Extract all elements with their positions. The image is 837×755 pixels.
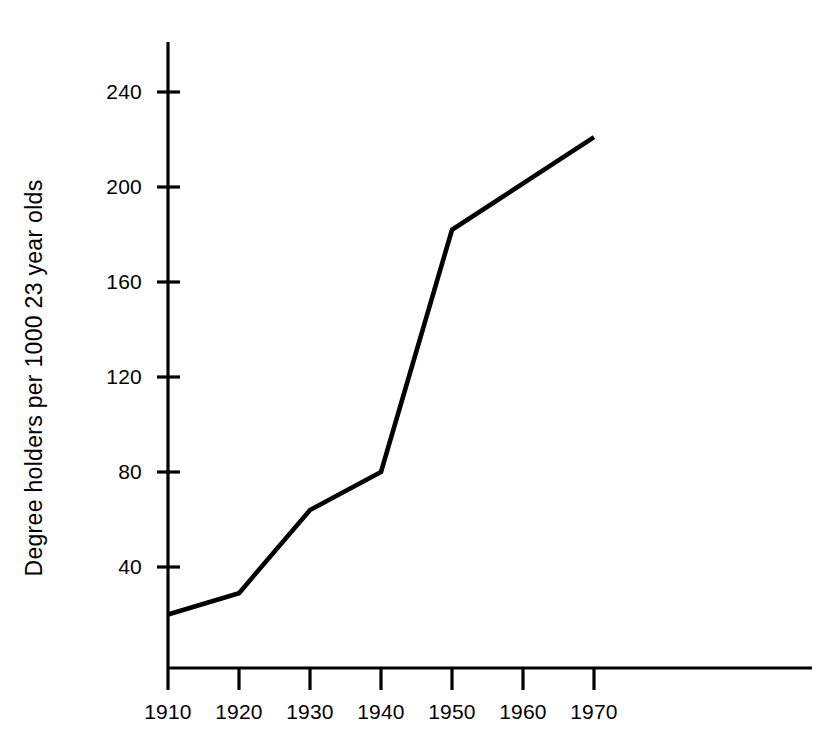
y-tick-label-80: 80 — [72, 460, 142, 484]
y-tick-label-120: 120 — [72, 365, 142, 389]
x-axis-ticks — [168, 668, 594, 690]
x-tick-label-1960: 1960 — [483, 700, 563, 724]
x-tick-label-1950: 1950 — [412, 700, 492, 724]
x-tick-label-1920: 1920 — [199, 700, 279, 724]
line-chart: 240 200 160 120 80 40 1910 1920 1930 194… — [0, 0, 837, 755]
x-tick-label-1910: 1910 — [128, 700, 208, 724]
x-tick-label-1940: 1940 — [341, 700, 421, 724]
y-axis-title: Degree holders per 1000 23 year olds — [11, 58, 57, 698]
y-tick-label-200: 200 — [72, 175, 142, 199]
y-tick-label-160: 160 — [72, 270, 142, 294]
data-series-line — [168, 137, 594, 614]
x-tick-label-1970: 1970 — [554, 700, 634, 724]
y-tick-label-240: 240 — [72, 80, 142, 104]
x-tick-label-1930: 1930 — [270, 700, 350, 724]
y-tick-label-40: 40 — [72, 555, 142, 579]
